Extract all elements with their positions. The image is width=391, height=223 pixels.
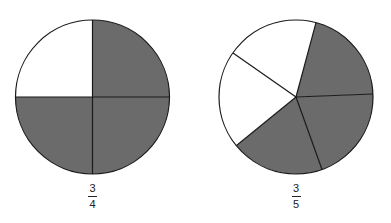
sector-shaded-bottom-right bbox=[93, 97, 170, 174]
numerator: 3 bbox=[281, 183, 311, 194]
fraction-bar bbox=[292, 196, 301, 197]
circle-three-quarters bbox=[16, 20, 170, 174]
sector-shaded-top-right bbox=[93, 20, 170, 97]
fraction-bar bbox=[88, 196, 97, 197]
fraction-label-left: 3 4 bbox=[78, 183, 108, 210]
numerator: 3 bbox=[78, 183, 108, 194]
fraction-diagrams bbox=[0, 0, 391, 223]
sector-shaded-bottom-left bbox=[16, 97, 93, 174]
circle-three-fifths bbox=[219, 20, 373, 174]
fraction-label-right: 3 5 bbox=[281, 183, 311, 210]
denominator: 4 bbox=[78, 199, 108, 210]
sector-unshaded-top-left bbox=[16, 20, 93, 97]
denominator: 5 bbox=[281, 199, 311, 210]
